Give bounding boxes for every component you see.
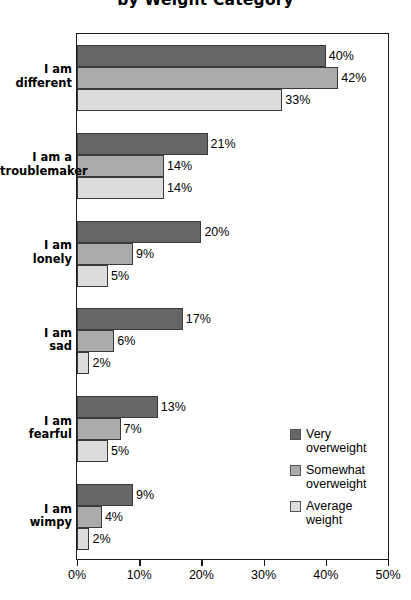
bar-value-label: 7% (121, 422, 142, 436)
bar[interactable] (77, 308, 183, 330)
bar-value-label: 33% (282, 93, 310, 107)
x-axis-tick (77, 560, 78, 566)
bar-row: 9% (77, 243, 388, 265)
bar[interactable] (77, 265, 108, 287)
bar-value-label: 17% (183, 312, 211, 326)
bar[interactable] (77, 484, 133, 506)
bar-row: 40% (77, 45, 388, 67)
bar-group: 21%14%14% (77, 133, 388, 199)
x-axis-tick (139, 560, 140, 566)
bar-row: 2% (77, 352, 388, 374)
bar[interactable] (77, 418, 121, 440)
chart-title: by Weight Category (0, 0, 411, 10)
legend-swatch-icon (290, 429, 301, 440)
bar-group: 20%9%5% (77, 221, 388, 287)
bar-row: 17% (77, 308, 388, 330)
bar-value-label: 13% (158, 400, 186, 414)
x-axis-tick-label: 40% (313, 568, 338, 582)
bar[interactable] (77, 177, 164, 199)
bar[interactable] (77, 243, 133, 265)
bar[interactable] (77, 352, 89, 374)
bar-value-label: 5% (108, 444, 129, 458)
bar-group: 17%6%2% (77, 308, 388, 374)
legend-swatch-icon (290, 465, 301, 476)
bar-value-label: 14% (164, 159, 192, 173)
x-axis-tick-label: 50% (375, 568, 400, 582)
x-axis-tick (201, 560, 202, 566)
y-axis-label: I am different (0, 63, 72, 90)
bar-value-label: 20% (201, 225, 229, 239)
y-axis-label: I am wimpy (0, 503, 72, 530)
y-axis-label: I am sad (0, 327, 72, 354)
bar[interactable] (77, 528, 89, 550)
legend-label: Somewhat overweight (306, 463, 366, 491)
x-axis-tick (264, 560, 265, 566)
bar-value-label: 9% (133, 488, 154, 502)
chart-legend: Very overweightSomewhat overweightAverag… (290, 427, 366, 535)
bar-group: 40%42%33% (77, 45, 388, 111)
bar-row: 13% (77, 396, 388, 418)
legend-swatch-icon (290, 501, 301, 512)
x-axis-tick-label: 20% (189, 568, 214, 582)
legend-label: Average weight (306, 499, 352, 527)
x-axis-tick-label: 0% (68, 568, 86, 582)
bar-row: 20% (77, 221, 388, 243)
y-axis-label: I am lonely (0, 239, 72, 266)
x-axis-tick (326, 560, 327, 566)
bar-value-label: 4% (102, 510, 123, 524)
y-axis-label: I am a troublemaker (0, 151, 72, 178)
bar[interactable] (77, 45, 326, 67)
bar-value-label: 2% (89, 356, 110, 370)
bar[interactable] (77, 89, 282, 111)
legend-item[interactable]: Very overweight (290, 427, 366, 455)
bar-value-label: 6% (114, 334, 135, 348)
bar-value-label: 40% (326, 49, 354, 63)
legend-label: Very overweight (306, 427, 366, 455)
bar[interactable] (77, 133, 208, 155)
bar-row: 6% (77, 330, 388, 352)
x-axis-tick-label: 10% (127, 568, 152, 582)
bar[interactable] (77, 67, 338, 89)
bar[interactable] (77, 440, 108, 462)
x-axis-tick (388, 560, 389, 566)
bar[interactable] (77, 506, 102, 528)
bar-value-label: 42% (338, 71, 366, 85)
y-axis-label: I am fearful (0, 415, 72, 442)
bar-row: 14% (77, 155, 388, 177)
bar-row: 5% (77, 265, 388, 287)
bar-row: 21% (77, 133, 388, 155)
bar[interactable] (77, 330, 114, 352)
bar-value-label: 2% (89, 532, 110, 546)
legend-item[interactable]: Somewhat overweight (290, 463, 366, 491)
bar[interactable] (77, 155, 164, 177)
bar[interactable] (77, 396, 158, 418)
bar-row: 33% (77, 89, 388, 111)
bar-value-label: 5% (108, 269, 129, 283)
x-axis-tick-label: 30% (251, 568, 276, 582)
bar-value-label: 21% (208, 137, 236, 151)
bar-value-label: 9% (133, 247, 154, 261)
legend-item[interactable]: Average weight (290, 499, 366, 527)
bar-value-label: 14% (164, 181, 192, 195)
bar-row: 42% (77, 67, 388, 89)
x-axis: 0%10%20%30%40%50% (76, 560, 389, 590)
bar-row: 14% (77, 177, 388, 199)
bar[interactable] (77, 221, 201, 243)
